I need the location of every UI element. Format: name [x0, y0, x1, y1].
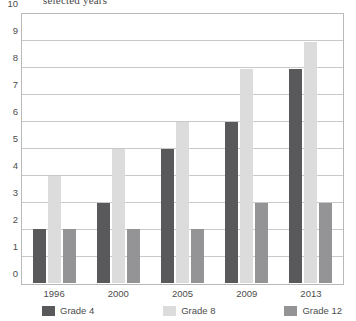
legend-swatch [163, 306, 176, 316]
y-axis-tick-label: 5 [13, 133, 18, 144]
bar-group [214, 15, 278, 283]
bar-series-layer [23, 15, 342, 283]
bar [255, 203, 268, 283]
bar [240, 69, 253, 283]
x-axis-ticks: 19962000200520092013 [22, 288, 343, 299]
y-axis-tick-label: 2 [13, 214, 18, 225]
x-axis-tick-label: 1996 [22, 288, 86, 299]
y-axis-tick-label: 8 [13, 52, 18, 63]
bar [176, 122, 189, 283]
bar [97, 203, 110, 283]
bar [127, 229, 140, 283]
y-axis-tick-label: 9 [13, 25, 18, 36]
bar-group [87, 15, 151, 283]
chart-legend: Grade 4Grade 8Grade 12 [42, 305, 342, 316]
bar [289, 69, 302, 283]
y-axis-tick-label: 6 [13, 106, 18, 117]
y-axis-tick-label: 10 [7, 0, 18, 9]
bar-group [278, 15, 342, 283]
legend-item[interactable]: Grade 12 [284, 305, 342, 316]
y-axis-tick-label: 1 [13, 241, 18, 252]
bar [63, 229, 76, 283]
chart-subtitle: selected years [43, 0, 107, 6]
bar-group [23, 15, 87, 283]
bar [225, 122, 238, 283]
legend-swatch [284, 306, 297, 316]
plot-area: 109876543210 [21, 13, 344, 285]
legend-item[interactable]: Grade 4 [42, 305, 94, 316]
x-axis-tick-label: 2000 [86, 288, 150, 299]
bar [33, 229, 46, 283]
bar [191, 229, 204, 283]
x-axis-tick-label: 2013 [279, 288, 343, 299]
legend-label: Grade 12 [302, 305, 342, 316]
legend-label: Grade 8 [181, 305, 215, 316]
legend-item[interactable]: Grade 8 [163, 305, 215, 316]
y-axis-tick-label: 7 [13, 79, 18, 90]
bar [319, 203, 332, 283]
y-axis-tick-label: 3 [13, 187, 18, 198]
bar [112, 149, 125, 283]
bar-group [151, 15, 215, 283]
y-axis-tick-label: 4 [13, 160, 18, 171]
legend-label: Grade 4 [60, 305, 94, 316]
x-axis-tick-label: 2005 [150, 288, 214, 299]
y-axis-tick-label: 0 [13, 268, 18, 279]
bar [48, 176, 61, 283]
bar [161, 149, 174, 283]
legend-swatch [42, 306, 55, 316]
x-axis-tick-label: 2009 [215, 288, 279, 299]
bar [304, 42, 317, 283]
